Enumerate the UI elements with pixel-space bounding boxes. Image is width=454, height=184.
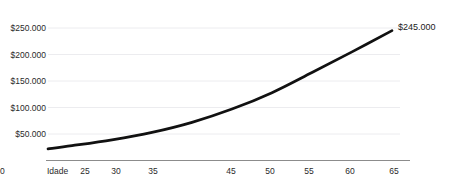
line-series-path (48, 31, 392, 149)
x-axis-title: Idade (47, 166, 68, 177)
line-chart-plot (0, 0, 454, 184)
x-tick-label-50: 50 (265, 166, 274, 177)
y-tick-label-150000: $150.000 (0, 77, 46, 86)
x-tick-label-40: 40 (0, 166, 5, 177)
end-value-annotation: $245.000 (398, 22, 436, 33)
x-tick-label-55: 55 (304, 166, 313, 177)
line-series-path-draft5 (48, 29, 398, 149)
x-tick-label-30: 30 (111, 166, 120, 177)
x-tick-label-25: 25 (80, 166, 89, 177)
y-tick-label-50000: $50.000 (0, 130, 46, 139)
line-series-path-draft6 (48, 30, 398, 149)
x-tick-label-65: 65 (389, 166, 398, 177)
gridlines (48, 28, 400, 134)
y-axis-labels: $250.000 $200.000 $150.000 $100.000 $50.… (0, 0, 46, 184)
y-tick-label-250000: $250.000 (0, 24, 46, 33)
chart-container: $250.000 $200.000 $150.000 $100.000 $50.… (0, 0, 454, 184)
x-tick-label-45: 45 (226, 166, 235, 177)
y-tick-label-200000: $200.000 (0, 51, 46, 60)
x-tick-label-60: 60 (345, 166, 354, 177)
y-tick-label-100000: $100.000 (0, 104, 46, 113)
x-axis-labels: Idade 25 30 35 40 45 50 55 60 65 (0, 166, 454, 180)
x-tick-label-35: 35 (148, 166, 157, 177)
line-series-path-draft4 (48, 8, 398, 149)
